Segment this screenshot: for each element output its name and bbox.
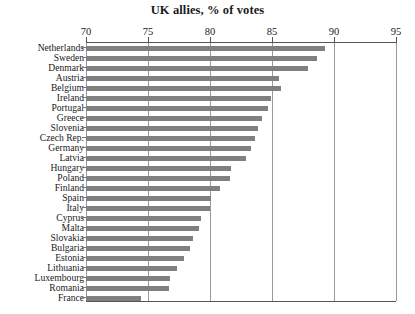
bar: [86, 116, 262, 121]
bar: [86, 156, 246, 161]
bar: [86, 166, 231, 171]
x-tick-label: 95: [391, 26, 402, 37]
bar: [86, 76, 279, 81]
bar: [86, 186, 220, 191]
bar-rows: NetherlandsSwedenDenmarkAustriaBelgiumIr…: [0, 43, 415, 301]
bar: [86, 176, 230, 181]
bar: [86, 266, 177, 271]
bar: [86, 56, 317, 61]
bar: [86, 96, 271, 101]
bar-row: France: [0, 293, 415, 304]
bar: [86, 236, 193, 241]
bar: [86, 226, 199, 231]
bar: [86, 286, 169, 291]
x-tick-label: 70: [81, 26, 92, 37]
bar-chart: UK allies, % of votes 707580859095 Nethe…: [0, 0, 415, 314]
x-tick-label: 80: [205, 26, 216, 37]
bar: [86, 196, 211, 201]
bar: [86, 246, 190, 251]
bar: [86, 216, 201, 221]
bar: [86, 136, 255, 141]
bar: [86, 46, 325, 51]
chart-title: UK allies, % of votes: [0, 3, 415, 18]
bar: [86, 106, 268, 111]
bar: [86, 206, 210, 211]
bar: [86, 296, 141, 301]
bar: [86, 276, 170, 281]
x-tick-label: 90: [329, 26, 340, 37]
x-tick-label: 75: [143, 26, 154, 37]
x-tick-label: 85: [267, 26, 278, 37]
bar: [86, 146, 251, 151]
bar: [86, 86, 281, 91]
bar: [86, 66, 308, 71]
bar: [86, 126, 258, 131]
bar: [86, 256, 184, 261]
category-label: France: [58, 293, 84, 304]
